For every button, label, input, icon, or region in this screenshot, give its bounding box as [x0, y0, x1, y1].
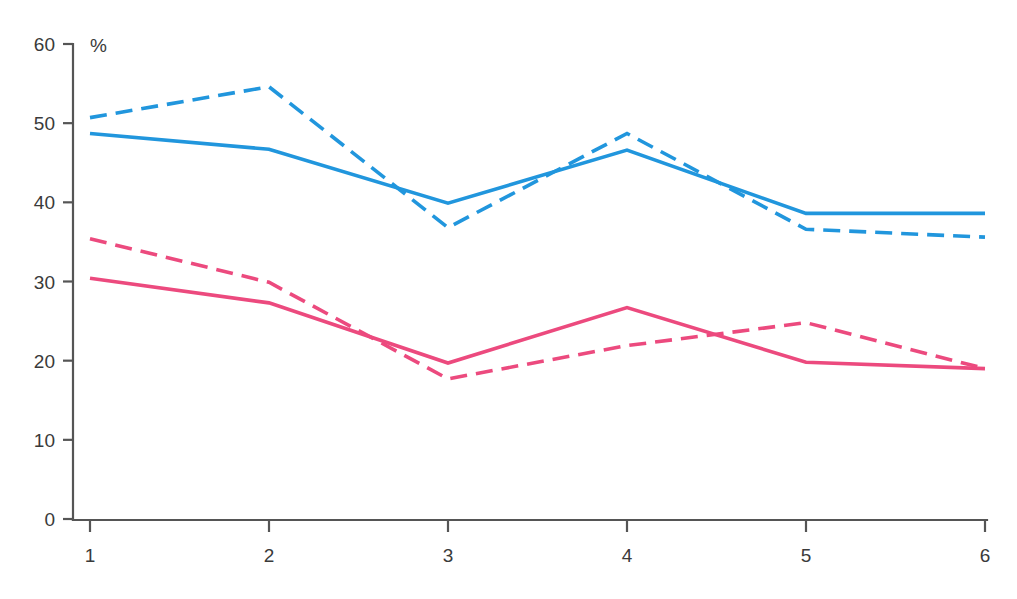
x-axis: 123456: [73, 520, 990, 566]
x-axis-tick-label: 2: [264, 545, 275, 566]
x-axis-tick-label: 1: [85, 545, 96, 566]
y-axis-unit-label: %: [90, 35, 107, 56]
x-axis-tick-labels: 123456: [85, 545, 991, 566]
y-axis-tick-label: 50: [34, 113, 55, 134]
data-series-group: [90, 87, 985, 379]
y-axis-tick-label: 60: [34, 34, 55, 55]
x-axis-tick-label: 6: [980, 545, 991, 566]
unit-label-group: %: [90, 35, 107, 56]
series-line-pink-dashed: [90, 239, 985, 379]
x-axis-tick-label: 4: [622, 545, 633, 566]
chart-canvas: % 0102030405060 123456: [0, 0, 1017, 599]
y-axis-tick-label: 40: [34, 192, 55, 213]
x-axis-tick-label: 5: [801, 545, 812, 566]
line-chart: % 0102030405060 123456: [0, 0, 1017, 599]
y-axis-tick-labels: 0102030405060: [34, 34, 55, 530]
y-axis-tick-label: 0: [44, 509, 55, 530]
y-axis-tick-label: 10: [34, 430, 55, 451]
y-axis-tick-label: 20: [34, 351, 55, 372]
y-axis-ticks: [63, 44, 73, 519]
x-axis-ticks: [90, 520, 985, 532]
x-axis-tick-label: 3: [443, 545, 454, 566]
y-axis-tick-label: 30: [34, 272, 55, 293]
y-axis: 0102030405060: [34, 34, 73, 530]
series-line-pink-solid: [90, 278, 985, 368]
series-line-blue-solid: [90, 133, 985, 213]
